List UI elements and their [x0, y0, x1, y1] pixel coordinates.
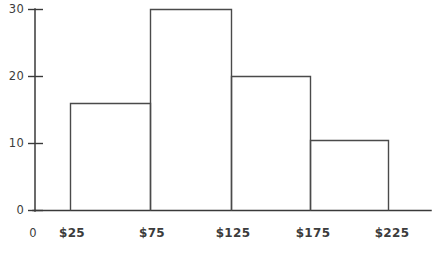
x-axis-label-225: $225 — [375, 227, 410, 239]
histogram-bar-175-225 — [311, 141, 389, 211]
y-axis-label-20: 20 — [0, 71, 24, 83]
histogram-bar-125-175 — [232, 77, 311, 211]
y-axis-label-0: 0 — [0, 205, 24, 217]
chart-canvas — [0, 0, 432, 253]
histogram-bar-75-125 — [151, 10, 232, 211]
y-axis-label-30: 30 — [0, 4, 24, 16]
x-axis-label-25: $25 — [59, 227, 85, 239]
y-axis-label-10: 10 — [0, 138, 24, 150]
x-axis-label-75: $75 — [139, 227, 165, 239]
histogram-chart: 30 20 10 0 0 $25 $75 $125 $175 $225 — [0, 0, 432, 253]
x-axis-label-175: $175 — [296, 227, 331, 239]
histogram-bar-25-75 — [71, 104, 151, 211]
x-axis-label-origin: 0 — [29, 228, 37, 240]
x-axis-label-125: $125 — [216, 227, 251, 239]
